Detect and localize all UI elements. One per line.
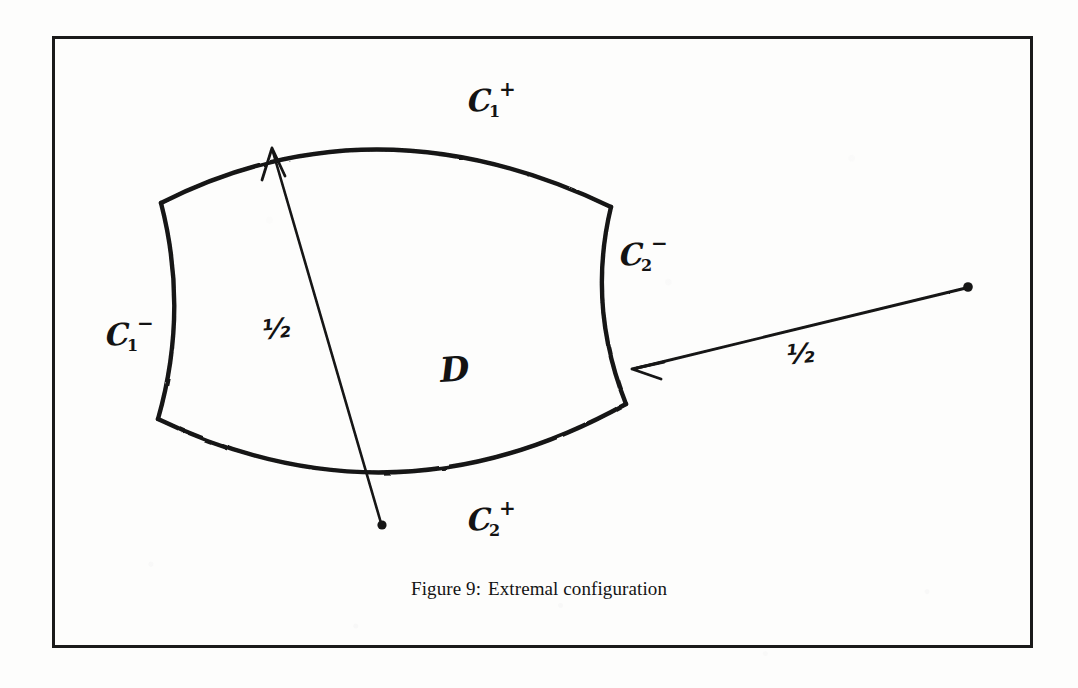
label-radius-right-half: ½ [785,339,815,368]
label-c1-minus-sup: − [137,311,154,335]
label-radius-left-half: ½ [261,314,292,344]
radius-arrow-right-center-dot [963,282,973,292]
radius-arrow-right-head [632,362,664,379]
label-c1-minus: C1− [106,320,158,350]
figure-caption-label: Figure 9: [411,578,481,599]
label-c2-minus: C2− [620,240,672,270]
figure-caption: Figure 9:Extremal configuration [0,578,1078,600]
label-c1-plus-sup: + [499,77,516,101]
label-domain-d: D [439,351,471,387]
arc-c2-minus [602,207,626,404]
label-c2-plus-sub: 2 [489,521,500,540]
arc-c2-plus [158,404,626,472]
label-c2-plus-sup: + [499,496,516,520]
label-c1-plus-sub: 1 [489,102,500,121]
radius-arrow-left-center-dot [377,520,386,529]
figure-caption-text: Extremal configuration [488,578,667,599]
label-c2-minus-sub: 2 [641,256,652,275]
label-c2-plus: C2+ [468,505,520,535]
label-c2-minus-sup: − [651,231,668,255]
figure-page: C1+ C1− C2− C2+ D ½ ½ Figure 9:Extremal … [0,0,1078,688]
label-c1-plus: C1+ [468,86,520,116]
arc-c1-plus [161,149,611,207]
label-c1-minus-sub: 1 [127,336,138,355]
arc-c1-minus [158,203,174,419]
